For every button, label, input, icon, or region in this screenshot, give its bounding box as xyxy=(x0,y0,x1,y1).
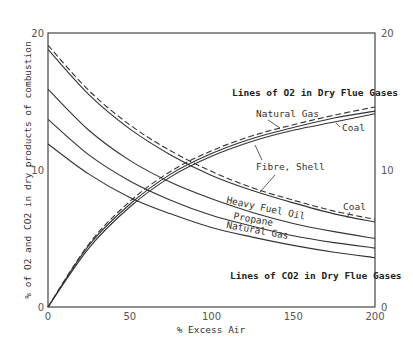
data-curves xyxy=(48,45,375,307)
label-coal-mid: Coal xyxy=(343,201,366,212)
x-axis-label: % Excess Air xyxy=(177,324,246,335)
label-coal-top: Coal xyxy=(342,122,365,133)
label-natural-gas-top: Natural Gas xyxy=(256,108,319,119)
y-tick-label-right: 10 xyxy=(381,165,394,176)
curve-coal-falling-dashed- xyxy=(48,45,375,219)
o2-lines-title: Lines of O2 in Dry Flue Gases xyxy=(232,87,398,98)
y-tick-label-left: 20 xyxy=(31,28,44,39)
co2-lines-title: Lines of CO2 in Dry Flue Gases xyxy=(230,270,402,281)
x-tick-label: 0 xyxy=(45,311,51,322)
x-tick-label: 50 xyxy=(123,311,136,322)
y-tick-label-left: 10 xyxy=(31,165,44,176)
y-tick-label-right: 20 xyxy=(381,28,394,39)
label-fibre-shell: Fibre, Shell xyxy=(256,161,325,172)
curve-propane-falling- xyxy=(48,119,375,248)
y-tick-label-right: 0 xyxy=(381,302,387,313)
y-axis-label: % of O2 and CO2 in dry products of combu… xyxy=(22,41,33,298)
x-tick-label: 150 xyxy=(284,311,303,322)
plot-frame xyxy=(48,33,375,307)
x-tick-label: 100 xyxy=(202,311,221,322)
flue-gas-chart: 0501001502000102001020 Lines of O2 in Dr… xyxy=(0,0,413,354)
curve-fibre-shell-falling- xyxy=(48,49,375,222)
y-tick-label-left: 0 xyxy=(38,302,44,313)
curve-heavy-fuel-oil-falling- xyxy=(48,89,375,238)
